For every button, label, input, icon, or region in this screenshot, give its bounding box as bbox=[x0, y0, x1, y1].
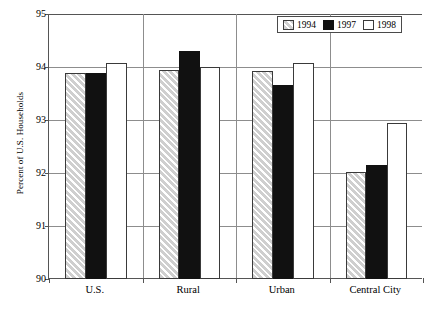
legend-entry-1994: 1994 bbox=[283, 20, 316, 30]
bar-urban-1994 bbox=[252, 71, 273, 279]
x-tick-mark-3 bbox=[330, 278, 331, 283]
bar-rural-1994 bbox=[159, 70, 180, 279]
bar-rural-1998 bbox=[200, 67, 221, 279]
legend-label-1994: 1994 bbox=[297, 20, 316, 30]
y-tick-label-92: 92 bbox=[6, 168, 46, 178]
legend-entry-1998: 1998 bbox=[363, 20, 396, 30]
group-separator-2 bbox=[236, 14, 237, 278]
bar-u-s-1994 bbox=[65, 73, 86, 279]
bar-central-city-1997 bbox=[366, 165, 387, 279]
bar-urban-1998 bbox=[293, 63, 314, 279]
bar-rural-1997 bbox=[179, 51, 200, 279]
y-tick-label-94: 94 bbox=[6, 62, 46, 72]
x-axis-label-3: Central City bbox=[315, 284, 429, 295]
bar-urban-1997 bbox=[273, 85, 294, 279]
plot-area bbox=[48, 14, 422, 279]
legend-label-1997: 1997 bbox=[337, 20, 356, 30]
x-tick-mark-2 bbox=[236, 278, 237, 283]
legend-swatch-1994 bbox=[283, 20, 294, 30]
y-tick-label-93: 93 bbox=[6, 115, 46, 125]
bar-central-city-1998 bbox=[387, 123, 408, 279]
legend-entry-1997: 1997 bbox=[323, 20, 356, 30]
x-tick-mark-0 bbox=[49, 278, 50, 283]
group-separator-1 bbox=[143, 14, 144, 278]
y-tick-label-91: 91 bbox=[6, 221, 46, 231]
chart-legend: 1994 1997 1998 bbox=[277, 16, 402, 33]
group-separator-3 bbox=[330, 14, 331, 278]
bar-chart: Percent of U.S. Households 1994 1997 199… bbox=[0, 0, 429, 314]
legend-swatch-1997 bbox=[323, 20, 334, 30]
bar-u-s-1997 bbox=[86, 73, 107, 279]
bar-u-s-1998 bbox=[106, 63, 127, 279]
x-tick-mark-end bbox=[423, 278, 424, 283]
legend-label-1998: 1998 bbox=[377, 20, 396, 30]
legend-swatch-1998 bbox=[363, 20, 374, 30]
y-tick-label-95: 95 bbox=[6, 9, 46, 19]
y-axis-title: Percent of U.S. Households bbox=[15, 48, 25, 238]
x-tick-mark-1 bbox=[143, 278, 144, 283]
y-tick-label-90: 90 bbox=[6, 274, 46, 284]
bar-central-city-1994 bbox=[346, 172, 367, 279]
